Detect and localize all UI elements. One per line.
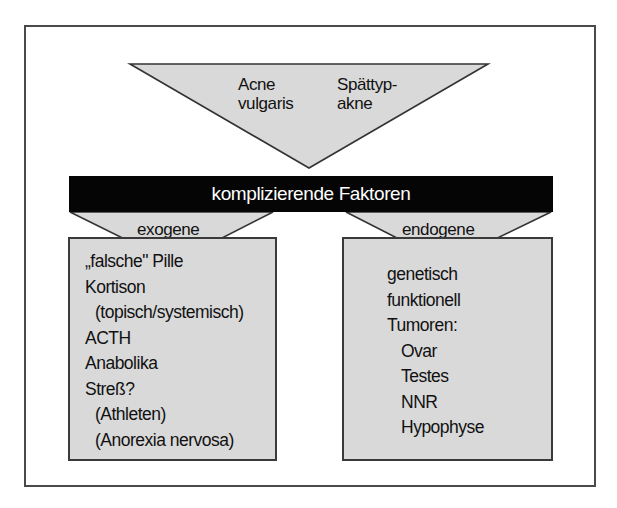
list-item: Anabolika (85, 351, 244, 377)
list-item: Testes (387, 364, 484, 390)
list-item: ACTH (85, 326, 244, 352)
list-item: Tumoren: (387, 313, 484, 339)
top-triangle (130, 64, 488, 168)
list-item: „falsche" Pille (85, 249, 244, 275)
list-item: NNR (387, 390, 484, 416)
list-item: (Athleten) (85, 402, 244, 428)
acne-vulgaris-label: Acne vulgaris (238, 75, 293, 113)
spaettypakne-line-1: Spättyp- (337, 75, 397, 94)
komplizierende-faktoren-bar: komplizierende Faktoren (69, 176, 553, 212)
spaettypakne-label: Spättyp- akne (337, 75, 397, 113)
endogene-factors-list: genetisch funktionell Tumoren: Ovar Test… (387, 262, 484, 441)
exogene-factors-list: „falsche" Pille Kortison (topisch/system… (85, 249, 244, 453)
acne-vulgaris-line-1: Acne (238, 75, 293, 94)
exogene-factors-box: „falsche" Pille Kortison (topisch/system… (68, 237, 277, 461)
list-item: (Anorexia nervosa) (85, 428, 244, 454)
acne-vulgaris-line-2: vulgaris (238, 94, 293, 113)
list-item: genetisch (387, 262, 484, 288)
endogene-factors-box: genetisch funktionell Tumoren: Ovar Test… (342, 237, 553, 461)
list-item: Ovar (387, 339, 484, 365)
list-item: Kortison (85, 275, 244, 301)
list-item: Streß? (85, 377, 244, 403)
spaettypakne-line-2: akne (337, 94, 397, 113)
list-item: funktionell (387, 288, 484, 314)
list-item: (topisch/systemisch) (85, 300, 244, 326)
list-item: Hypophyse (387, 415, 484, 441)
